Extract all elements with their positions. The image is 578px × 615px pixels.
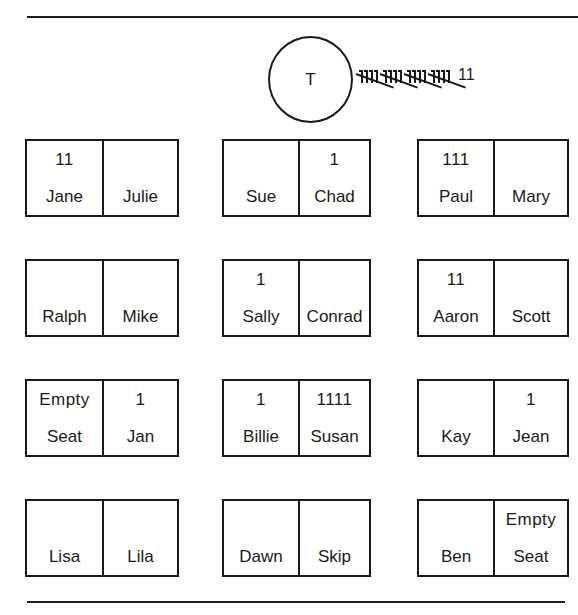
student-name: Susan [300,427,369,447]
student-name: Ben [419,547,493,567]
desk-pair: Sue 1 Chad [222,139,371,217]
tally-five-group [432,67,451,83]
student-name: Billie [224,427,298,447]
student-name: Julie [104,187,177,207]
student-name: Jane [27,187,102,207]
seat-tally: 11 [419,270,493,290]
tally-five-group [384,67,403,83]
seat-tally: 111 [419,150,493,170]
front-wall-line [27,16,578,18]
seat: Kay [419,381,493,455]
student-name: Sally [224,307,298,327]
student-name: Ralph [27,307,102,327]
teacher-tally-marks: 11 [360,66,475,84]
seat: Scott [493,261,567,335]
seat: Conrad [298,261,369,335]
teacher-desk: T [268,36,353,123]
seat-empty-label: Seat [27,427,102,447]
student-name: Chad [300,187,369,207]
seat: 1 Billie [224,381,298,455]
student-name: Kay [419,427,493,447]
seat-tally: 1 [224,270,298,290]
student-name: Dawn [224,547,298,567]
desk-pair: Ben Empty Seat [417,499,569,577]
student-name: Paul [419,187,493,207]
seat: Lisa [27,501,102,575]
student-name: Scott [495,307,567,327]
seat-empty-label: Empty [495,510,567,530]
seat: 1 Jan [102,381,177,455]
student-name: Mike [104,307,177,327]
desk-pair: Ralph Mike [25,259,179,337]
seat: 11 Aaron [419,261,493,335]
seat-empty: Empty Seat [27,381,102,455]
student-name: Aaron [419,307,493,327]
seat: 1 Chad [298,141,369,215]
seat: 111 Paul [419,141,493,215]
student-name: Skip [300,547,369,567]
desk-pair: 11 Aaron Scott [417,259,569,337]
seat: Dawn [224,501,298,575]
seat: 1 Jean [493,381,567,455]
seat: Mike [102,261,177,335]
student-name: Conrad [300,307,369,327]
seat: Mary [493,141,567,215]
seat-tally: 1 [104,390,177,410]
seat-tally: 11 [27,150,102,170]
back-wall-line [27,601,565,603]
seat-tally: 1 [300,150,369,170]
seat: Ben [419,501,493,575]
seat-empty-label: Empty [27,390,102,410]
desk-pair: Empty Seat 1 Jan [25,379,179,457]
seat: 11 Jane [27,141,102,215]
seat-empty: Empty Seat [493,501,567,575]
seat: Skip [298,501,369,575]
desk-pair: 1 Sally Conrad [222,259,371,337]
student-name: Jean [495,427,567,447]
tally-five-group [360,67,379,83]
seat: 1 Sally [224,261,298,335]
seat: Sue [224,141,298,215]
student-name: Lisa [27,547,102,567]
desk-pair: Lisa Lila [25,499,179,577]
desk-pair: Kay 1 Jean [417,379,569,457]
seat-tally: 1111 [300,390,369,410]
student-name: Lila [104,547,177,567]
desk-pair: Dawn Skip [222,499,371,577]
tally-remainder: 11 [458,66,475,84]
student-name: Sue [224,187,298,207]
seat: Julie [102,141,177,215]
seat-tally: 1 [495,390,567,410]
desk-pair: 111 Paul Mary [417,139,569,217]
student-name: Jan [104,427,177,447]
tally-five-group [408,67,427,83]
seat-empty-label: Seat [495,547,567,567]
seat: 1111 Susan [298,381,369,455]
seat: Lila [102,501,177,575]
desk-pair: 11 Jane Julie [25,139,179,217]
desk-pair: 1 Billie 1111 Susan [222,379,371,457]
seat-tally: 1 [224,390,298,410]
student-name: Mary [495,187,567,207]
seat: Ralph [27,261,102,335]
teacher-label: T [305,70,315,90]
